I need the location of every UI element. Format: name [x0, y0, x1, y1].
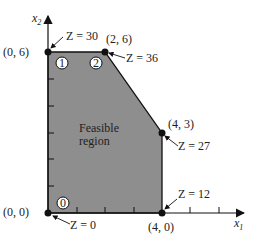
z-label-0-6: Z = 30: [66, 29, 98, 43]
svg-text:1: 1: [59, 56, 65, 70]
marker-1: 1: [56, 56, 68, 70]
z-label-0-0: Z = 0: [70, 218, 96, 232]
marker-0: 0: [57, 196, 69, 210]
region-label-line2: region: [79, 134, 110, 148]
region-label-line1: Feasible: [79, 121, 119, 135]
y-axis-label: x2: [31, 11, 41, 27]
z-arrow-0-0: [53, 216, 70, 224]
coord-4-3: (4, 3): [168, 117, 194, 131]
coord-2-6: (2, 6): [106, 32, 132, 46]
marker-2: 2: [90, 56, 102, 70]
z-arrow-4-3: [165, 136, 178, 146]
z-arrow-4-0: [165, 199, 177, 209]
svg-text:0: 0: [60, 196, 66, 210]
z-label-4-0: Z = 12: [178, 187, 210, 201]
x-axis-label: x1: [233, 216, 243, 232]
z-arrow-2-6: [109, 53, 125, 58]
lp-diagram: x1 x2 Feasible region 0 1 2 (0, 0) (0, 6…: [0, 0, 260, 236]
coord-4-0: (4, 0): [148, 220, 174, 234]
coord-0-0: (0, 0): [3, 205, 29, 219]
z-label-2-6: Z = 36: [126, 51, 158, 65]
z-arrow-0-6: [51, 37, 63, 48]
z-label-4-3: Z = 27: [178, 139, 210, 153]
coord-0-6: (0, 6): [3, 45, 29, 59]
svg-text:2: 2: [93, 56, 99, 70]
